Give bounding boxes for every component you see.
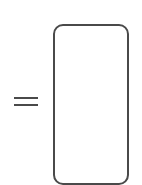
- equals-bar-bottom: [14, 104, 38, 106]
- phone-outline-rectangle: [53, 24, 129, 185]
- equals-bar-top: [14, 97, 38, 99]
- equals-sign-icon: [14, 97, 38, 106]
